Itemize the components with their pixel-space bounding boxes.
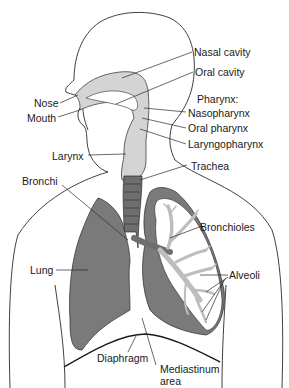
label-mediastinum-area: area <box>160 375 181 387</box>
label-lung: Lung <box>30 264 53 276</box>
label-larynx: Larynx <box>52 150 84 162</box>
label-nasopharynx: Nasopharynx <box>188 107 250 119</box>
left-lung <box>69 198 130 350</box>
label-oral-pharynx: Oral pharynx <box>188 122 248 134</box>
label-alveoli: Alveoli <box>229 269 260 281</box>
label-laryngopharynx: Laryngopharynx <box>188 138 263 150</box>
label-bronchi: Bronchi <box>22 175 58 187</box>
label-nasal-cavity: Nasal cavity <box>194 46 251 58</box>
label-bronchioles: Bronchioles <box>200 221 255 233</box>
label-mouth: Mouth <box>27 112 56 124</box>
label-pharynx: Pharynx: <box>197 93 238 105</box>
label-nose: Nose <box>34 97 59 109</box>
label-mediastinum: Mediastinum <box>160 363 220 375</box>
label-trachea: Trachea <box>191 160 229 172</box>
respiratory-system-diagram <box>0 0 289 388</box>
label-diaphragm: Diaphragm <box>97 352 148 364</box>
label-oral-cavity: Oral cavity <box>195 66 245 78</box>
